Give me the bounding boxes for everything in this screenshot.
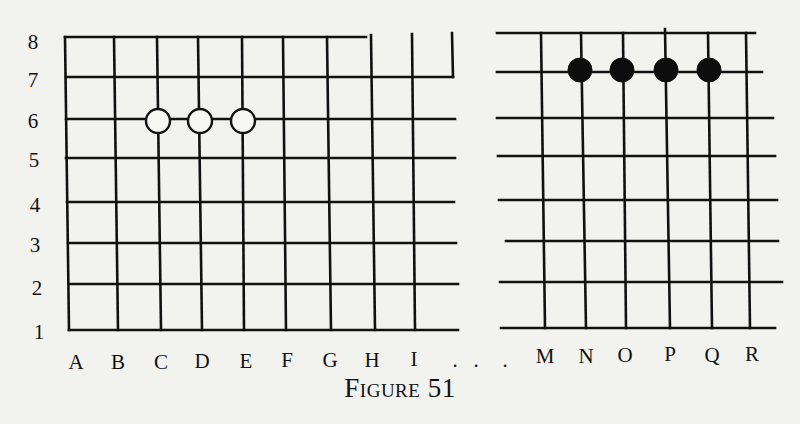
row-label-2: 2 (32, 278, 43, 299)
right-grid-col-line-M (541, 33, 545, 328)
go-board-figure: 87654321 ABCDEFGHIMNOPQR ... Figure 51 (0, 0, 800, 424)
column-label-p: P (664, 344, 676, 365)
column-label-f: F (281, 350, 293, 371)
left-grid-col-line-A (65, 37, 69, 330)
column-label-a: A (68, 352, 83, 373)
figure-caption: Figure 51 (344, 373, 455, 404)
right-grid-col-line-R (746, 33, 750, 328)
column-label-h: H (364, 350, 379, 371)
left-grid-col-line-F (283, 37, 286, 330)
column-label-o: O (617, 345, 632, 366)
row-label-3: 3 (30, 235, 41, 256)
left-grid-col-line-I (412, 34, 415, 330)
row-label-4: 4 (30, 195, 41, 216)
left-board-section (65, 33, 458, 330)
left-grid-col-line-D (198, 37, 202, 330)
left-grid-col-line-edge (452, 33, 453, 77)
column-label-i: I (411, 349, 418, 370)
left-grid-col-line-B (114, 37, 118, 330)
left-grid-col-line-C (157, 37, 161, 330)
column-label-n: N (578, 346, 593, 367)
white-stone-c6 (146, 109, 170, 133)
left-grid-col-line-G (327, 37, 331, 330)
column-label-r: R (745, 344, 759, 365)
column-label-g: G (322, 350, 337, 371)
row-label-6: 6 (28, 111, 39, 132)
white-stone-d6 (188, 109, 212, 133)
row-label-5: 5 (29, 150, 40, 171)
column-label-d: D (194, 351, 209, 372)
left-grid-col-line-E (242, 37, 244, 330)
row-label-8: 8 (28, 32, 39, 53)
row-label-7: 7 (28, 70, 39, 91)
black-stone-n7 (568, 58, 592, 82)
black-stone-p7 (654, 58, 678, 82)
column-label-e: E (240, 351, 253, 372)
ellipsis-dot-1: . (473, 350, 478, 371)
left-grid-col-line-H (371, 35, 375, 330)
ellipsis-dot-0: . (452, 350, 457, 371)
white-stone-e6 (231, 109, 255, 133)
right-board-section (497, 29, 782, 328)
black-stone-q7 (697, 58, 721, 82)
black-stone-o7 (610, 58, 634, 82)
column-label-b: B (111, 352, 125, 373)
column-label-m: M (536, 346, 555, 367)
row-label-1: 1 (34, 322, 45, 343)
ellipsis-dot-2: . (502, 350, 507, 371)
column-label-q: Q (704, 345, 719, 366)
column-label-c: C (154, 352, 168, 373)
